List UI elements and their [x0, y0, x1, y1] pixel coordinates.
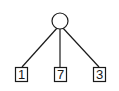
edges [22, 27, 99, 67]
leaf-label-2: 7 [57, 67, 64, 82]
leaf-node-3: 3 [94, 67, 106, 82]
leaf-node-1: 1 [16, 67, 28, 82]
root-node [52, 13, 68, 29]
edge-root-to-leaf-1 [22, 27, 58, 67]
tree-diagram: 1 7 3 [0, 0, 119, 91]
edge-root-to-leaf-3 [62, 27, 99, 67]
leaf-node-2: 7 [55, 67, 67, 82]
leaf-label-1: 1 [18, 67, 25, 82]
leaf-label-3: 3 [96, 67, 103, 82]
